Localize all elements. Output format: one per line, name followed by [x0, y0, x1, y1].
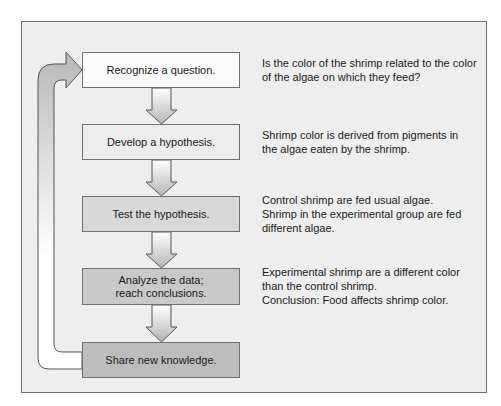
step-share-knowledge: Share new knowledge. — [82, 342, 240, 378]
down-arrow-icon — [146, 160, 177, 196]
step-label: Share new knowledge. — [105, 354, 216, 367]
down-arrow-icon — [146, 232, 177, 268]
step-label: Recognize a question. — [107, 64, 216, 77]
step-description-analysis: Experimental shrimp are a different colo… — [262, 265, 484, 307]
step-description-test: Control shrimp are fed usual algae. Shri… — [262, 193, 484, 235]
step-description-question: Is the color of the shrimp related to th… — [262, 56, 484, 84]
step-recognize-question: Recognize a question. — [82, 52, 240, 88]
down-arrow-icon — [146, 88, 177, 124]
step-test-hypothesis: Test the hypothesis. — [82, 196, 240, 232]
step-label: Test the hypothesis. — [112, 208, 209, 221]
step-label: Develop a hypothesis. — [107, 136, 215, 149]
step-description-hypothesis: Shrimp color is derived from pigments in… — [262, 128, 484, 156]
step-develop-hypothesis: Develop a hypothesis. — [82, 124, 240, 160]
step-label: Analyze the data; reach conclusions. — [115, 274, 206, 300]
loop-back-arrow-icon — [38, 52, 82, 369]
step-analyze-data: Analyze the data; reach conclusions. — [82, 268, 240, 305]
down-arrow-icon — [146, 305, 177, 342]
